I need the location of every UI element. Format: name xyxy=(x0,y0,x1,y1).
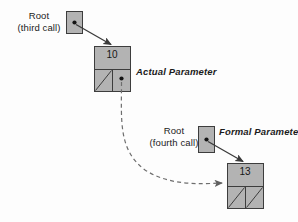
root-third-call-line-2: (third call) xyxy=(14,22,64,34)
root-pointer-third-call xyxy=(67,12,83,34)
node-10-right-pointer-dot xyxy=(119,76,123,80)
root-fourth-call-line-2: (fourth call) xyxy=(146,137,202,149)
formal-parameter-label: Formal Parameter xyxy=(219,126,298,138)
root-third-call-line-1: Root xyxy=(14,10,64,22)
root-fourth-call-label: Root (fourth call) xyxy=(146,125,202,149)
node-13-value: 13 xyxy=(227,166,263,177)
root-third-call-label: Root (third call) xyxy=(14,10,64,34)
root-fourth-call-line-1: Root xyxy=(146,125,202,137)
actual-parameter-label: Actual Parameter xyxy=(136,66,217,78)
diagram-canvas: Root (third call) Root (fourth call) Act… xyxy=(0,0,298,222)
edge-root-third-to-node-10 xyxy=(76,25,111,45)
node-10-value: 10 xyxy=(94,49,130,60)
